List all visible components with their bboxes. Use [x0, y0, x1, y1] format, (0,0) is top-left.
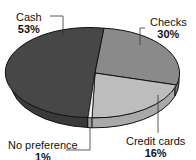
slice-cash [5, 28, 104, 118]
label-credit-cards-value: 16% [126, 147, 185, 159]
label-cash: Cash 53% [16, 11, 42, 35]
label-credit-cards: Credit cards 16% [126, 135, 185, 159]
label-cash-value: 53% [16, 23, 42, 35]
label-checks-value: 30% [150, 28, 187, 40]
pie-top [5, 28, 179, 118]
label-checks: Checks 30% [150, 16, 187, 40]
label-credit-cards-name: Credit cards [126, 135, 185, 147]
label-checks-name: Checks [150, 16, 187, 28]
label-cash-name: Cash [16, 11, 42, 23]
label-no-preference: No preference 1% [8, 139, 78, 160]
label-no-preference-name: No preference [8, 139, 78, 151]
label-no-preference-value: 1% [8, 151, 78, 160]
